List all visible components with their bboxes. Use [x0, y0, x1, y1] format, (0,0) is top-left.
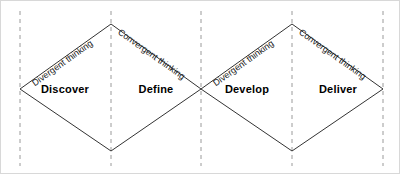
phase-label-deliver: Deliver	[319, 83, 357, 95]
phase-label-develop: Develop	[225, 83, 269, 95]
phase-label-discover: Discover	[41, 83, 89, 95]
phase-label-define: Define	[139, 83, 174, 95]
double-diamond-diagram: Discover Define Develop Deliver Divergen…	[0, 0, 400, 174]
